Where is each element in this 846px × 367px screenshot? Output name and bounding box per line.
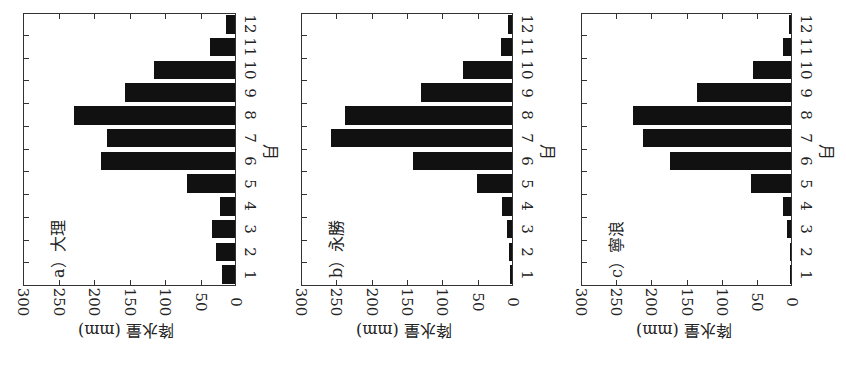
value-tick bbox=[201, 14, 202, 19]
value-tick bbox=[59, 14, 60, 19]
month-label: 4 bbox=[798, 195, 814, 217]
month-tick bbox=[582, 149, 587, 150]
bar-month-10 bbox=[753, 61, 791, 80]
value-tick bbox=[722, 14, 723, 19]
month-label: 6 bbox=[242, 150, 258, 172]
value-tick-label: 250 bbox=[328, 287, 344, 317]
value-tick bbox=[722, 280, 723, 285]
month-label: 7 bbox=[798, 127, 814, 149]
month-axis-title: 月 bbox=[537, 144, 561, 160]
month-tick bbox=[24, 58, 29, 59]
month-label: 11 bbox=[519, 36, 535, 58]
value-tick-label: 200 bbox=[643, 287, 659, 317]
bar-month-6 bbox=[101, 152, 235, 171]
value-tick bbox=[336, 14, 337, 19]
month-tick bbox=[582, 262, 587, 263]
month-label: 12 bbox=[242, 13, 258, 35]
value-tick-label: 100 bbox=[714, 287, 730, 317]
value-tick-label: 50 bbox=[749, 287, 765, 317]
month-tick bbox=[302, 217, 307, 218]
bar-month-1 bbox=[222, 265, 235, 284]
value-tick bbox=[616, 14, 617, 19]
value-tick bbox=[757, 14, 758, 19]
value-tick bbox=[616, 280, 617, 285]
value-tick bbox=[651, 280, 652, 285]
month-label: 3 bbox=[242, 218, 258, 240]
station-label: b）永勝 bbox=[323, 220, 347, 278]
value-tick bbox=[407, 14, 408, 19]
value-tick-label: 50 bbox=[470, 287, 486, 317]
month-label: 2 bbox=[798, 241, 814, 263]
y-axis-title: 降水量 (mm) bbox=[356, 320, 452, 344]
month-label: 1 bbox=[798, 264, 814, 286]
value-tick-label: 250 bbox=[608, 287, 624, 317]
month-tick bbox=[24, 80, 29, 81]
month-axis-title: 月 bbox=[816, 144, 840, 160]
month-tick bbox=[582, 80, 587, 81]
value-tick bbox=[651, 14, 652, 19]
value-tick-label: 250 bbox=[51, 287, 67, 317]
month-tick bbox=[582, 103, 587, 104]
month-tick bbox=[582, 171, 587, 172]
bar-month-2 bbox=[509, 243, 512, 262]
month-label: 7 bbox=[519, 127, 535, 149]
bar-month-8 bbox=[633, 106, 791, 125]
value-tick-label: 300 bbox=[15, 287, 31, 317]
bar-month-6 bbox=[670, 152, 791, 171]
value-tick-label: 0 bbox=[228, 287, 244, 317]
month-label: 10 bbox=[519, 59, 535, 81]
value-tick bbox=[442, 280, 443, 285]
value-tick bbox=[757, 280, 758, 285]
month-tick bbox=[24, 240, 29, 241]
bar-month-9 bbox=[697, 83, 791, 102]
value-tick bbox=[407, 280, 408, 285]
month-tick bbox=[582, 126, 587, 127]
bar-month-4 bbox=[783, 197, 791, 216]
month-tick bbox=[302, 103, 307, 104]
bar-month-5 bbox=[751, 174, 791, 193]
month-tick bbox=[24, 103, 29, 104]
month-tick bbox=[302, 35, 307, 36]
value-tick-label: 0 bbox=[505, 287, 521, 317]
month-tick bbox=[24, 217, 29, 218]
bar-month-5 bbox=[187, 174, 235, 193]
value-tick bbox=[130, 280, 131, 285]
value-tick bbox=[130, 14, 131, 19]
bar-month-12 bbox=[789, 15, 791, 34]
value-tick-label: 150 bbox=[399, 287, 415, 317]
month-tick bbox=[24, 194, 29, 195]
bar-month-3 bbox=[212, 220, 235, 239]
bar-month-11 bbox=[210, 38, 235, 57]
bar-month-9 bbox=[421, 83, 512, 102]
value-tick-label: 300 bbox=[293, 287, 309, 317]
month-label: 6 bbox=[798, 150, 814, 172]
month-tick bbox=[302, 194, 307, 195]
month-tick bbox=[302, 58, 307, 59]
value-tick bbox=[372, 14, 373, 19]
bar-month-7 bbox=[331, 129, 512, 148]
month-label: 9 bbox=[798, 82, 814, 104]
bar-month-6 bbox=[413, 152, 512, 171]
month-label: 5 bbox=[798, 173, 814, 195]
value-tick bbox=[372, 280, 373, 285]
month-label: 9 bbox=[242, 82, 258, 104]
bar-month-12 bbox=[508, 15, 512, 34]
value-tick bbox=[687, 14, 688, 19]
month-label: 11 bbox=[798, 36, 814, 58]
month-label: 8 bbox=[242, 104, 258, 126]
month-label: 8 bbox=[798, 104, 814, 126]
bar-month-11 bbox=[783, 38, 791, 57]
month-tick bbox=[582, 58, 587, 59]
value-tick bbox=[478, 280, 479, 285]
month-label: 11 bbox=[242, 36, 258, 58]
month-label: 4 bbox=[242, 195, 258, 217]
bar-month-2 bbox=[216, 243, 235, 262]
value-tick bbox=[94, 280, 95, 285]
month-label: 5 bbox=[242, 173, 258, 195]
value-tick-label: 150 bbox=[679, 287, 695, 317]
value-tick-label: 0 bbox=[784, 287, 800, 317]
month-tick bbox=[24, 126, 29, 127]
month-label: 10 bbox=[798, 59, 814, 81]
month-tick bbox=[302, 240, 307, 241]
bar-month-12 bbox=[226, 15, 235, 34]
